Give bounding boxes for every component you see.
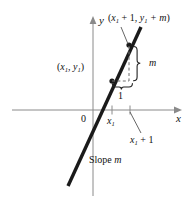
upper-point-label: (x1 + 1, y1 + m) (108, 13, 170, 24)
upper-point-leader-line (121, 27, 128, 44)
slope-word: Slope (89, 154, 114, 165)
tick-label-x1: x1 (107, 116, 115, 127)
slope-diagram: (x1 + 1, y1 + m) (x1, y1) m 1 0 y x x1 x… (0, 0, 195, 205)
lower-point-label: (x1, y1) (57, 62, 84, 73)
tick-label-x1-plus-1: x1 + 1 (130, 135, 153, 146)
slope-annotation: Slope m (89, 155, 122, 165)
slope-symbol: m (114, 154, 121, 165)
diagram-canvas (0, 0, 195, 205)
rise-dashed-guide (112, 46, 129, 81)
tick-x1-sub: 1 (111, 120, 114, 127)
y-axis (90, 16, 97, 196)
lower-paren-close: ) (81, 61, 84, 72)
x-axis-label: x (176, 113, 181, 124)
upper-paren-close: ) (166, 12, 169, 23)
rise-brace-label: m (149, 58, 156, 68)
x-axis (12, 107, 182, 114)
y-axis-label: y (99, 15, 104, 26)
upper-x-rest: + 1, (119, 12, 137, 23)
rise-brace (134, 47, 141, 81)
plotted-points (109, 42, 131, 83)
origin-label: 0 (81, 114, 86, 124)
tick-x1p1-rest: + 1 (138, 134, 154, 145)
x1-plus-1-leader-line (130, 112, 141, 133)
upper-y-rest: + m (147, 12, 166, 23)
run-brace-label: 1 (118, 91, 123, 101)
